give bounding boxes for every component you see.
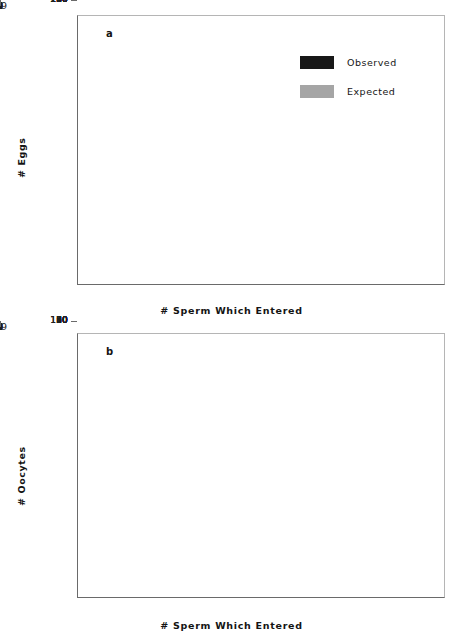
- y-axis-a: 0102030405060708090100110120130140150160…: [0, 0, 77, 321]
- chart-legend: Observed Expected: [300, 56, 397, 114]
- y-tick-label: 120: [50, 315, 68, 325]
- y-tick-mark: [71, 0, 77, 1]
- panel-letter-b: b: [106, 346, 113, 357]
- legend-label-expected: Expected: [347, 86, 395, 97]
- x-axis-title-a: # Sperm Which Entered: [0, 305, 463, 316]
- plot-area-a: a Observed Expected: [77, 15, 445, 285]
- y-tick-label: 200: [50, 0, 68, 4]
- legend-swatch-observed: [300, 56, 334, 69]
- plot-area-b: b: [77, 333, 445, 598]
- x-tick-label: >9: [0, 0, 7, 11]
- y-tick-mark: [71, 321, 77, 322]
- y-axis-b: 0102030405060708090100110120: [0, 321, 77, 642]
- legend-entry-expected: Expected: [300, 85, 397, 98]
- x-axis-title-b: # Sperm Which Entered: [0, 620, 463, 631]
- legend-swatch-expected: [300, 85, 334, 98]
- legend-entry-observed: Observed: [300, 56, 397, 69]
- panel-letter-a: a: [106, 28, 113, 39]
- legend-label-observed: Observed: [347, 57, 397, 68]
- x-tick-label: >9: [0, 321, 7, 332]
- chart-panel-a: # Eggs 010203040506070809010011012013014…: [0, 0, 463, 321]
- chart-panel-b: # Oocytes 0102030405060708090100110120 b…: [0, 321, 463, 642]
